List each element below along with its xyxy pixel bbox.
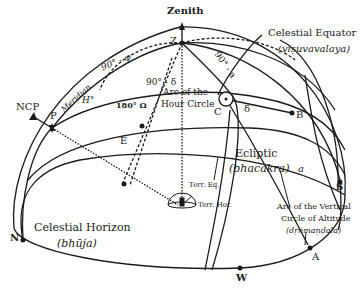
b-label: B <box>296 110 303 120</box>
celestial-sphere-diagram: Zenith Z Celestial Equator (viṣuvavalaya… <box>0 0 362 289</box>
h-angle-label: H° <box>82 96 94 105</box>
p-label: P <box>50 111 57 121</box>
ecliptic-sanskrit: (bhacakra) <box>229 163 289 174</box>
ninety-minus-delta-label: 90° - δ <box>146 78 176 87</box>
c-to-b <box>230 100 292 113</box>
p-to-observer-dotted <box>52 128 178 205</box>
dashed-z-e <box>122 43 182 185</box>
celestial-horizon-sanskrit: (bhūja) <box>57 238 97 249</box>
vertical-circle-line2: Circle of Altitude <box>281 215 350 223</box>
s-label: S <box>336 182 343 192</box>
ecliptic-down <box>205 110 230 270</box>
celestial-equator-sanskrit: (viṣuvavalaya) <box>278 44 350 54</box>
omega-point <box>140 124 145 129</box>
celestial-horizon-label: Celestial Horizon <box>34 222 131 233</box>
ecliptic-label: Ecliptic <box>235 148 277 159</box>
hour-circle-line1: Arc of the <box>163 88 208 97</box>
w-label: W <box>236 273 247 283</box>
terr-hor-label: Terr. Hor. <box>198 202 232 209</box>
n-point <box>21 238 26 243</box>
a-point <box>308 246 313 251</box>
ncp-label: NCP <box>16 102 39 112</box>
sun-symbol-c <box>219 92 233 106</box>
b-point <box>290 111 295 116</box>
ncp-point <box>29 112 37 120</box>
w-point <box>238 266 243 271</box>
z-label: Z <box>170 36 177 46</box>
zenith-label: Zenith <box>167 6 204 16</box>
n-label: N <box>10 233 19 243</box>
outer-dome <box>14 27 346 228</box>
observer-dome <box>168 193 196 208</box>
vertical-circle-line1: Arc of the Vertical <box>277 203 351 211</box>
z-point <box>180 41 185 46</box>
hour-circle-line2: Hour Circle <box>161 100 215 109</box>
e-label: E <box>120 136 127 146</box>
celestial-equator-label: Celestial Equator <box>268 28 356 38</box>
vertical-circle-sanskrit: (dṛṅmaṇḍala) <box>286 227 341 235</box>
omega-label: 180° Ω <box>116 101 147 109</box>
delta-label: δ <box>244 104 250 114</box>
e-point <box>122 182 127 187</box>
a-point-label: A <box>312 252 319 262</box>
c-label: C <box>214 107 222 117</box>
zenith-arrowhead <box>179 22 185 30</box>
terr-eq-label: Terr. Eq. <box>189 182 219 189</box>
ecliptic-pointer <box>214 157 218 180</box>
a-arc-label: a <box>298 164 304 174</box>
